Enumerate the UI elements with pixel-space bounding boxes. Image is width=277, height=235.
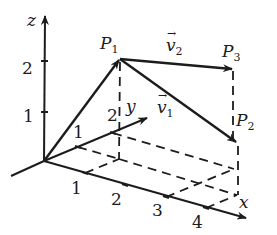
z-axis-label: z (27, 12, 36, 29)
z-tick-label-1: 1 (23, 108, 34, 125)
z-tick-label-2: 2 (22, 60, 33, 77)
x-axis-label: x (239, 194, 249, 211)
y-axis-label: y (126, 98, 136, 115)
x-tick-label-4: 4 (192, 214, 203, 231)
x-axis-back (11, 161, 44, 176)
vector-label-v1: →v1 (157, 99, 174, 116)
dash-xtick1-to-foot (85, 159, 119, 173)
vector-v1 (120, 59, 236, 142)
x-tick-label-2: 2 (111, 191, 122, 208)
dash-ytick1-to-foot (78, 147, 119, 159)
y-tick-label-2: 2 (107, 107, 118, 124)
point-label-p1: P1 (100, 35, 118, 52)
z-axis (44, 16, 45, 161)
dash-xtick4-to-p2-base (206, 195, 237, 208)
x-tick-label-3: 3 (152, 202, 163, 219)
x-tick-label-1: 1 (71, 180, 82, 197)
dash-xtick3-to-p3-base (166, 169, 234, 197)
vector-label-v2: →v2 (166, 37, 183, 54)
y-tick-label-1: 1 (73, 124, 84, 141)
dash-ytick2-to-p3-base (113, 133, 234, 169)
vector-diagram: z x y 2 1 1 2 3 4 1 2 P1 P3 P2 →v2 →v1 (0, 0, 277, 235)
point-label-p2: P2 (236, 112, 254, 129)
dash-p1-vertical (119, 62, 120, 159)
point-label-p3: P3 (222, 43, 240, 60)
vector-v2 (120, 59, 232, 69)
